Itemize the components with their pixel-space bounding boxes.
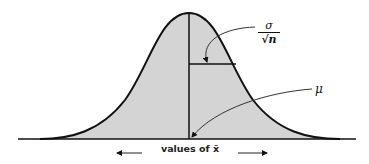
- std-error-label: σ √n: [258, 20, 280, 45]
- curve-area: [18, 13, 356, 139]
- sqrt-n-symbol: √n: [258, 33, 280, 45]
- sigma-symbol: σ: [258, 20, 280, 33]
- mean-label: μ: [315, 82, 323, 96]
- normal-curve-diagram: σ √n μ values of x̄: [0, 0, 369, 164]
- axis-label: values of x̄: [150, 143, 230, 154]
- bell-curve-graphic: [0, 0, 369, 164]
